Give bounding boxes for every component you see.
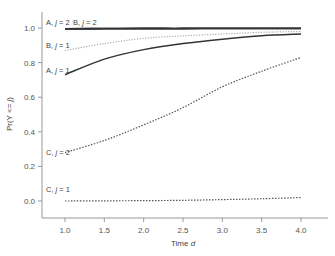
curve-labels: A, j = 2B, j = 2B, j = 1A, j = 1C, j = 2… — [46, 18, 97, 194]
curve-c-j-1 — [65, 198, 301, 201]
curves — [65, 28, 301, 201]
y-ticks: 0.00.20.40.60.81.0 — [24, 24, 42, 206]
curve-c-j-2 — [65, 57, 301, 152]
x-tick-label: 3.0 — [217, 226, 229, 235]
y-tick-label: 0.4 — [24, 128, 36, 137]
y-tick-label: 0.2 — [24, 162, 36, 171]
x-tick-label: 4.0 — [295, 226, 307, 235]
x-tick-label: 1.0 — [59, 226, 71, 235]
curve-b-j-2 — [65, 28, 301, 29]
curve-a-j-1 — [65, 34, 301, 75]
x-tick-label: 2.5 — [177, 226, 189, 235]
curve-label: C, j = 1 — [46, 185, 70, 194]
x-tick-label: 3.5 — [256, 226, 268, 235]
curve-label: C, j = 2 — [46, 148, 70, 157]
x-ticks: 1.01.52.02.53.03.54.0 — [59, 218, 307, 235]
y-tick-label: 1.0 — [24, 24, 36, 33]
x-tick-label: 1.5 — [99, 226, 111, 235]
y-tick-label: 0.8 — [24, 59, 36, 68]
curve-label: B, j = 1 — [46, 41, 70, 50]
curve-label: B, j = 2 — [73, 18, 97, 27]
y-axis-title: Pr(Y <= j) — [5, 97, 14, 131]
curve-b-j-1 — [65, 31, 301, 50]
chart: 0.00.20.40.60.81.0 1.01.52.02.53.03.54.0… — [0, 0, 335, 256]
y-tick-label: 0.6 — [24, 93, 36, 102]
x-axis-title: Time d — [171, 239, 196, 248]
x-tick-label: 2.0 — [138, 226, 150, 235]
curve-label: A, j = 2 — [46, 18, 70, 27]
y-tick-label: 0.0 — [24, 197, 36, 206]
curve-label: A, j = 1 — [46, 66, 70, 75]
